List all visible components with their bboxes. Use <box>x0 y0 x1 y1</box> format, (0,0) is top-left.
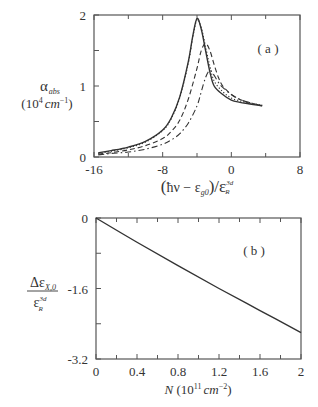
panel-a-xlabel: (ħν − εg0)/ε3dR <box>161 177 234 197</box>
x-tick-label: 8 <box>297 162 304 177</box>
panel-b-tick-labels: 00.40.81.21.620-1.6-3.2 <box>67 211 304 379</box>
y-tick-label: 0 <box>82 211 89 226</box>
panel-b-ylabel-numerator: ΔεX,0 <box>30 275 56 292</box>
panel-b-ticks <box>96 218 301 359</box>
panel-b-label: ( b ) <box>243 243 265 258</box>
panel-b-xlabel: N (1011cm−2) <box>164 382 232 397</box>
panel-a-plot: -16-808012 ( a ) αabs (104cm−1) (ħν − εg… <box>21 8 303 197</box>
curve-dash-dot <box>98 70 262 155</box>
x-tick-label: 0 <box>228 162 235 177</box>
x-tick-label: -8 <box>157 162 168 177</box>
x-tick-label: 2 <box>298 364 305 379</box>
x-tick-label: -16 <box>85 162 103 177</box>
x-tick-label: 0.8 <box>170 364 186 379</box>
panel-a-tick-labels: -16-808012 <box>80 8 304 177</box>
panel-b-plot: 00.40.81.21.620-1.6-3.2 ( b ) ΔεX,0 ε3dR… <box>27 211 304 397</box>
panel-a-ylabel: αabs <box>40 78 60 96</box>
y-tick-label: 2 <box>80 8 87 23</box>
x-tick-label: 0 <box>93 364 100 379</box>
y-tick-label: -1.6 <box>67 282 88 297</box>
curve-dashed <box>98 43 262 154</box>
panel-a-ticks <box>94 15 300 157</box>
y-tick-label: 0 <box>80 150 87 165</box>
panel-b-frame <box>96 218 301 359</box>
y-tick-label: -3.2 <box>67 352 88 367</box>
figure: -16-808012 ( a ) αabs (104cm−1) (ħν − εg… <box>0 0 318 407</box>
y-tick-label: 1 <box>80 79 87 94</box>
panel-a-ylabel-units: (104cm−1) <box>21 96 72 111</box>
panel-a-curves <box>98 18 262 154</box>
panel-b-ylabel-denominator: ε3dR <box>34 295 47 313</box>
panel-b-curves <box>96 218 301 333</box>
x-tick-label: 1.6 <box>252 364 269 379</box>
x-tick-label: 0.4 <box>129 364 146 379</box>
panel-a-frame <box>94 15 300 157</box>
x-tick-label: 1.2 <box>211 364 227 379</box>
panel-a-label: ( a ) <box>258 41 279 56</box>
curve-shift <box>96 218 301 333</box>
